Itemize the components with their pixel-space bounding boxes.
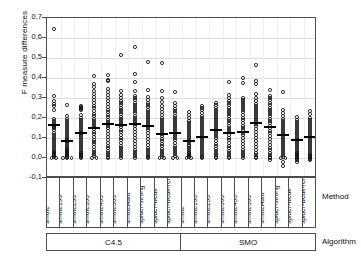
- median-bar: [264, 126, 276, 128]
- method-cell[interactable]: smoteAuto: [128, 178, 141, 227]
- method-row-label: Method: [322, 192, 349, 201]
- column-divider: [277, 18, 278, 176]
- median-bar: [250, 122, 262, 124]
- method-cell[interactable]: spider-weak-rel: [168, 178, 181, 227]
- method-cell[interactable]: smote100: [195, 178, 208, 227]
- method-cell[interactable]: smote: [47, 178, 60, 227]
- column-divider: [290, 18, 291, 176]
- algorithm-cell[interactable]: SMO: [181, 234, 315, 250]
- method-cell[interactable]: spider-weak-rel: [303, 178, 315, 227]
- data-point: [133, 45, 137, 49]
- median-bar: [277, 134, 289, 136]
- method-cell-label: smote: [182, 206, 185, 224]
- method-cell-label: spider-weak: [289, 188, 292, 224]
- median-bar: [48, 124, 60, 126]
- method-cell[interactable]: smote100: [60, 178, 73, 227]
- method-cell-label: smote400: [235, 195, 238, 224]
- method-cell-label: smote: [47, 206, 50, 224]
- method-cell[interactable]: smoteAuto: [262, 178, 275, 227]
- data-point: [133, 72, 137, 76]
- data-point: [160, 89, 164, 93]
- data-point: [176, 156, 180, 160]
- y-axis-tick-label: 0,2: [2, 112, 42, 121]
- column-divider: [115, 18, 116, 176]
- median-bar: [129, 123, 141, 125]
- column-divider: [223, 18, 224, 176]
- median-bar: [102, 123, 114, 125]
- data-point: [281, 90, 285, 94]
- data-point: [106, 156, 110, 160]
- data-point: [119, 53, 123, 57]
- data-point: [173, 90, 177, 94]
- column-divider: [250, 18, 251, 176]
- data-point: [146, 60, 150, 64]
- column-divider: [88, 18, 89, 176]
- method-cell[interactable]: smote: [182, 178, 195, 227]
- method-cell[interactable]: smote500: [249, 178, 262, 227]
- median-bar: [196, 136, 208, 138]
- method-cell-label: smote100: [60, 195, 63, 224]
- method-cell-label: smote500: [249, 195, 252, 224]
- column-divider: [128, 18, 129, 176]
- median-bar: [156, 133, 168, 135]
- data-point: [146, 156, 150, 160]
- method-cell[interactable]: spider-weak: [155, 178, 168, 227]
- method-cell[interactable]: smote200: [74, 178, 87, 227]
- y-axis-tick-label: 0,7: [2, 12, 42, 21]
- data-point: [241, 76, 245, 80]
- column-divider: [101, 18, 102, 176]
- data-point: [79, 108, 83, 112]
- method-cell[interactable]: spider-weak: [289, 178, 302, 227]
- data-point: [133, 80, 137, 84]
- method-cell-label: smote200: [74, 195, 77, 224]
- method-cell-label: smote100: [195, 195, 198, 224]
- column-divider: [304, 18, 305, 176]
- data-point: [171, 156, 175, 160]
- algorithm-cell[interactable]: C4.5: [47, 234, 181, 250]
- method-cell[interactable]: smote200: [208, 178, 221, 227]
- column-divider: [236, 18, 237, 176]
- algorithm-row-label: Algorithm: [322, 237, 356, 246]
- column-divider: [169, 18, 170, 176]
- method-cell-label: spider-strong: [141, 186, 144, 224]
- data-point: [146, 88, 150, 92]
- data-point: [133, 89, 137, 93]
- median-bar: [304, 136, 316, 138]
- median-bar: [88, 127, 100, 129]
- scatter-plot-figure: F measure differences 0,70,60,50,40,30,2…: [0, 0, 361, 264]
- data-point: [254, 156, 258, 160]
- method-row: smotesmote100smote200smote300smote400smo…: [46, 177, 316, 228]
- method-cell-label: smoteAuto: [128, 192, 131, 224]
- column-divider: [209, 18, 210, 176]
- median-bar: [210, 129, 222, 131]
- median-bar: [169, 132, 181, 134]
- method-cell[interactable]: smote400: [235, 178, 248, 227]
- method-cell-label: spider-strong: [276, 186, 279, 224]
- data-point: [189, 156, 193, 160]
- data-point: [79, 156, 83, 160]
- method-cell[interactable]: spider-strong: [141, 178, 154, 227]
- median-bar: [75, 132, 87, 134]
- data-point: [65, 156, 69, 160]
- median-bar: [223, 132, 235, 134]
- data-point: [227, 156, 231, 160]
- median-bar: [61, 140, 73, 142]
- column-divider: [74, 18, 75, 176]
- method-cell[interactable]: smote300: [222, 178, 235, 227]
- method-cell[interactable]: smote500: [114, 178, 127, 227]
- median-bar: [115, 124, 127, 126]
- data-point: [50, 156, 54, 160]
- method-cell[interactable]: smote300: [87, 178, 100, 227]
- method-cell-label: spider-weak-rel: [303, 179, 306, 224]
- method-cell-label: smoteAuto: [262, 192, 265, 224]
- data-point: [254, 63, 258, 67]
- data-point: [119, 156, 123, 160]
- column-divider: [155, 18, 156, 176]
- data-point: [162, 156, 166, 160]
- method-cell[interactable]: spider-strong: [276, 178, 289, 227]
- data-point: [90, 156, 94, 160]
- method-cell-label: smote300: [87, 195, 90, 224]
- method-cell[interactable]: smote400: [101, 178, 114, 227]
- data-point: [241, 156, 245, 160]
- y-axis-tick-label: -0,1: [2, 172, 42, 181]
